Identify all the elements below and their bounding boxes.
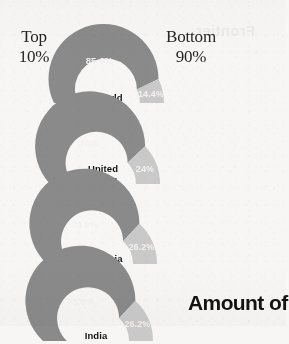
gauge-world-top-value: 85.6% — [86, 55, 114, 66]
legend-bottom-decile-line1: Bottom — [152, 27, 230, 47]
legend-top-decile-line1: Top — [6, 27, 62, 47]
page-title: Amount of — [188, 291, 288, 314]
gauge-indonesia-bottom-value: 26.2% — [128, 242, 154, 252]
gauge-india-svg: 73.8% 26.2% India — [40, 272, 156, 344]
legend-bottom-decile-line2: 90% — [152, 47, 230, 67]
gauge-india-country-label: India — [85, 330, 108, 341]
gauge-world-bottom-value: 14.4% — [138, 89, 164, 99]
gauge-united-states-bottom-value: 24% — [136, 164, 154, 174]
gauge-united-states-top-value: 76% — [80, 138, 100, 149]
gauge-india: 73.8% 26.2% India — [40, 272, 156, 344]
legend-top-decile-label: Top 10% — [6, 27, 62, 67]
gauge-indonesia-top-value: 73.8% — [71, 219, 99, 230]
legend-bottom-decile-label: Bottom 90% — [152, 27, 230, 67]
legend-top-decile-line2: 10% — [6, 47, 62, 67]
gauge-india-bottom-value: 26.2% — [124, 319, 150, 329]
gauge-india-top-value: 73.8% — [67, 296, 95, 307]
